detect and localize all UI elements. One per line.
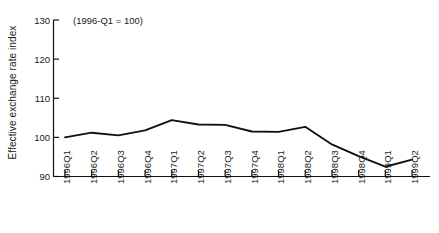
y-tick-marks	[54, 20, 60, 177]
data-series-line	[65, 120, 412, 167]
plot-area	[0, 0, 439, 233]
chart-container: Effective exchange rate index (1996-Q1 =…	[0, 0, 439, 233]
x-tick-marks	[65, 170, 412, 177]
